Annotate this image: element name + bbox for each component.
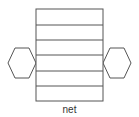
- right-hexagon-face: [103, 48, 131, 78]
- net-diagram: [0, 0, 139, 117]
- left-hexagon-face: [8, 48, 36, 78]
- caption: net: [0, 104, 139, 115]
